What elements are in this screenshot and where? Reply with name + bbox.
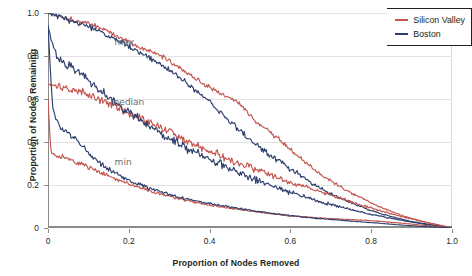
y-tick-label: 0	[13, 223, 39, 233]
x-tick-label: 0.8	[356, 236, 386, 246]
chart-container: Proportion of Nodes Remaining 00.20.40.6…	[0, 0, 472, 276]
y-tick-label: 0.6	[13, 94, 39, 104]
legend-item-silicon-valley[interactable]: Silicon Valley	[395, 15, 465, 25]
annotation-median: median	[111, 97, 145, 107]
x-tick-mark	[129, 229, 130, 233]
legend-swatch-icon	[395, 19, 408, 21]
legend-swatch-icon	[395, 33, 408, 35]
y-tick-label: 0.2	[13, 180, 39, 190]
x-tick-mark	[290, 229, 291, 233]
x-tick-mark	[452, 229, 453, 233]
y-axis-ticks: 00.20.40.60.81.0	[0, 0, 48, 276]
y-tick-label: 0.8	[13, 51, 39, 61]
x-tick-mark	[48, 229, 49, 233]
x-tick-label: 1.0	[437, 236, 467, 246]
annotation-max: max	[115, 37, 135, 47]
x-axis-title: Proportion of Nodes Removed	[0, 258, 472, 268]
series-line-boston-min	[48, 26, 452, 228]
legend-label: Silicon Valley	[413, 15, 465, 25]
y-tick-label: 0.4	[13, 137, 39, 147]
series-line-silicon-valley-min	[48, 99, 452, 228]
x-tick-label: 0.6	[275, 236, 305, 246]
series-line-boston-median	[48, 26, 452, 228]
x-tick-label: 0	[33, 236, 63, 246]
x-tick-label: 0.2	[114, 236, 144, 246]
legend: Silicon ValleyBoston	[387, 8, 472, 46]
x-tick-label: 0.4	[195, 236, 225, 246]
legend-label: Boston	[413, 29, 440, 39]
x-tick-mark	[371, 229, 372, 233]
series-line-silicon-valley-median	[48, 83, 452, 228]
legend-item-boston[interactable]: Boston	[395, 29, 465, 39]
x-tick-mark	[210, 229, 211, 233]
annotation-min: min	[115, 157, 132, 167]
y-tick-label: 1.0	[13, 8, 39, 18]
